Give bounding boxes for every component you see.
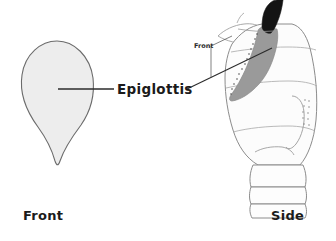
epiglottis-leaf-shape (21, 41, 93, 165)
caption-front-view: Front (23, 208, 63, 223)
epiglottis-diagram: Epiglottis Front Side Front (0, 0, 336, 241)
caption-side-view: Side (271, 208, 304, 223)
label-front-inset: Front (194, 42, 213, 50)
label-epiglottis: Epiglottis (117, 81, 193, 97)
front-view-illustration (0, 0, 336, 241)
side-view-larynx (218, 0, 317, 218)
